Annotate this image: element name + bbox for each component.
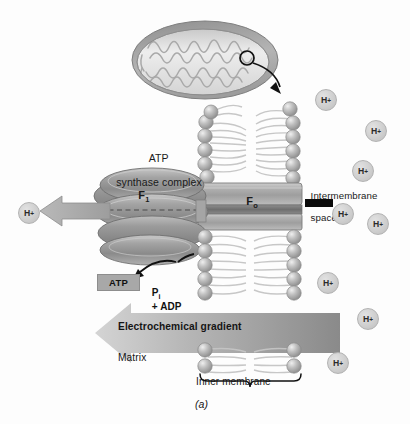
mitochondrion-icon: [132, 21, 278, 99]
proton-ion: H+: [367, 213, 389, 235]
phospholipid-heads-lower-right: [287, 230, 301, 300]
label-f0-subunit: Fo: [240, 182, 258, 210]
label-pi-letter: P: [152, 287, 159, 298]
membrane-lower-segment: [198, 230, 301, 300]
label-f0-subscript: o: [253, 201, 258, 210]
proton-ion: H+: [317, 272, 339, 294]
label-atp-synthase-line1: ATP: [149, 152, 169, 164]
label-electrochemical-gradient: Electrochemical gradient: [118, 321, 242, 333]
proton-ion: H+: [352, 160, 374, 182]
label-atp-synthase-line2: synthase complex: [116, 176, 202, 188]
phospholipid-heads-right: [283, 102, 300, 185]
membrane-upper-segment: [198, 102, 300, 185]
proton-ion: H+: [18, 202, 40, 224]
label-substrates-pi-adp: Pi + ADP: [146, 275, 182, 312]
label-f1-subscript: 1: [145, 195, 149, 204]
proton-ion: H+: [315, 89, 337, 111]
label-intermembrane-space: Intermembrane space: [305, 179, 405, 224]
phospholipid-heads-lower-left: [198, 230, 212, 300]
label-atp-synthase-complex: ATP synthase complex: [104, 140, 208, 188]
label-intermembrane-line1: Intermembrane: [311, 190, 378, 201]
figure-caption: (a): [195, 398, 208, 410]
label-matrix: Matrix: [118, 352, 146, 364]
label-adp: + ADP: [152, 301, 182, 312]
proton-ion: H+: [332, 203, 354, 225]
proton-ion: H+: [327, 352, 349, 374]
proton-ion: H+: [365, 120, 387, 142]
label-inner-membrane: Inner membrane: [196, 376, 271, 388]
proton-ion: H+: [357, 308, 379, 330]
label-f1-subunit: F1: [132, 176, 149, 204]
label-pi-subscript: i: [159, 293, 161, 300]
label-atp-product-box: ATP: [97, 274, 140, 291]
